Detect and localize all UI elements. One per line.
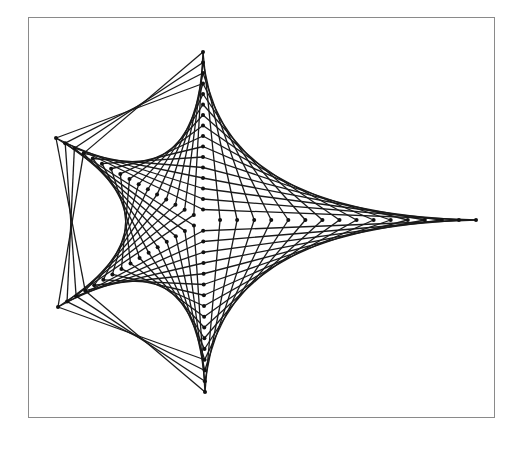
axis-dot xyxy=(155,192,159,196)
axis-dot xyxy=(183,208,187,212)
axis-dot xyxy=(355,218,359,222)
axis-dot xyxy=(74,294,78,298)
axis-dot xyxy=(201,61,205,65)
axis-dot xyxy=(203,358,207,362)
axis-dot xyxy=(72,146,76,150)
axis-dot xyxy=(201,71,205,75)
string-art-star xyxy=(0,0,517,450)
axis-dot xyxy=(202,315,206,319)
axis-dot xyxy=(201,124,205,128)
stitch-line xyxy=(58,153,84,307)
axis-dot xyxy=(92,283,96,287)
axis-dot xyxy=(201,103,205,107)
axis-dot xyxy=(202,261,206,265)
stitch-line xyxy=(203,168,408,221)
stitch-line xyxy=(205,220,254,371)
axis-dot xyxy=(252,218,256,222)
axis-dot xyxy=(192,223,196,227)
axis-dot xyxy=(269,218,273,222)
axis-dot xyxy=(201,155,205,159)
axis-dot xyxy=(202,336,206,340)
axis-dot xyxy=(201,176,205,180)
stitch-line xyxy=(67,148,74,301)
axis-dot xyxy=(218,218,222,222)
axis-dot xyxy=(201,229,205,233)
axis-dot xyxy=(128,177,132,181)
axis-dot xyxy=(202,293,206,297)
axis-dot xyxy=(201,187,205,191)
axis-dot xyxy=(203,379,207,383)
axis-dot xyxy=(147,251,151,255)
axis-dot xyxy=(201,113,205,117)
axis-dot xyxy=(201,250,205,254)
axis-dot xyxy=(440,218,444,222)
axis-dot xyxy=(372,218,376,222)
axis-dot xyxy=(82,151,86,155)
axis-dot xyxy=(457,218,461,222)
axis-dot xyxy=(389,218,393,222)
axis-dot xyxy=(56,305,60,309)
axis-dot xyxy=(138,256,142,260)
axis-dot xyxy=(119,267,123,271)
axis-dot xyxy=(286,218,290,222)
axis-dot xyxy=(156,245,160,249)
stitch-line xyxy=(139,115,203,184)
axis-dot xyxy=(201,50,205,54)
axis-dot xyxy=(201,134,205,138)
axis-dot xyxy=(165,240,169,244)
axis-dot xyxy=(183,229,187,233)
axis-dot xyxy=(203,347,207,351)
axis-dot xyxy=(201,197,205,201)
axis-dot xyxy=(173,203,177,207)
axis-dot xyxy=(423,218,427,222)
stitch-line xyxy=(203,73,254,220)
axis-dot xyxy=(201,92,205,96)
axis-dot xyxy=(320,218,324,222)
stitch-lines xyxy=(56,52,476,392)
axis-dot xyxy=(109,167,113,171)
axis-dot xyxy=(338,218,342,222)
axis-dot xyxy=(118,172,122,176)
axis-dot xyxy=(110,272,114,276)
axis-dot xyxy=(201,166,205,170)
axis-dot xyxy=(101,278,105,282)
stitch-line xyxy=(203,94,288,220)
axis-dot xyxy=(54,136,58,140)
axis-dot xyxy=(192,213,196,217)
axis-dot xyxy=(203,390,207,394)
axis-dot xyxy=(146,187,150,191)
axis-dot xyxy=(202,272,206,276)
axis-dot xyxy=(100,162,104,166)
axis-dot xyxy=(91,157,95,161)
stitch-line xyxy=(205,220,289,349)
stitch-line xyxy=(204,220,408,274)
axis-dot xyxy=(303,218,307,222)
axis-dot xyxy=(63,141,67,145)
axis-dot xyxy=(474,218,478,222)
axis-dot xyxy=(164,198,168,202)
axis-dot xyxy=(202,326,206,330)
axis-dot xyxy=(235,218,239,222)
axis-dot xyxy=(201,82,205,86)
axis-dot xyxy=(83,289,87,293)
axis-dot xyxy=(201,240,205,244)
axis-dot xyxy=(174,234,178,238)
axis-dot xyxy=(202,304,206,308)
axis-dot xyxy=(137,182,141,186)
axis-dot xyxy=(201,208,205,212)
axis-dot xyxy=(406,218,410,222)
axis-dot xyxy=(129,262,133,266)
axis-dot xyxy=(203,369,207,373)
axis-dot xyxy=(65,300,69,304)
axis-dot xyxy=(201,145,205,149)
axis-dot xyxy=(202,283,206,287)
